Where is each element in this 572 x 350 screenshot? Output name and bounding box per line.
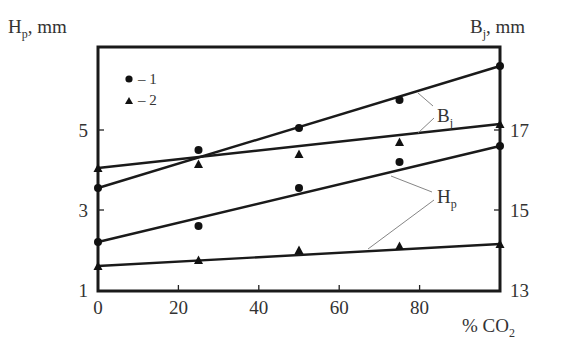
circle-marker-icon xyxy=(295,124,303,132)
triangle-marker-icon xyxy=(395,138,404,147)
x-tick-label: 0 xyxy=(93,297,103,318)
circle-marker-icon xyxy=(295,184,303,192)
triangle-marker-icon xyxy=(295,246,304,255)
chart: 020406080135131517 Hp, mm Bj, mm % CO2 –… xyxy=(0,0,572,350)
y-left-title: Hp, mm xyxy=(8,16,67,41)
legend-label-2: – 2 xyxy=(137,92,157,108)
circle-marker-icon xyxy=(195,222,203,230)
x-tick-label: 40 xyxy=(249,297,268,318)
circle-marker-icon xyxy=(396,158,404,166)
legend-circle-marker-icon xyxy=(125,75,132,82)
y-left-tick-label: 1 xyxy=(79,280,89,301)
y-right-tick-label: 13 xyxy=(510,280,529,301)
leader-hp-1 xyxy=(391,176,432,192)
circle-marker-icon xyxy=(496,142,504,150)
x-axis-title: % CO2 xyxy=(462,315,515,340)
triangle-marker-icon xyxy=(395,242,404,251)
x-tick-label: 60 xyxy=(330,297,349,318)
fit-lines xyxy=(98,66,500,266)
triangle-marker-icon xyxy=(295,150,304,159)
circle-marker-icon xyxy=(94,238,102,246)
circle-marker-icon xyxy=(195,146,203,154)
circle-marker-icon xyxy=(396,96,404,104)
legend-triangle-marker-icon xyxy=(125,97,133,104)
annotation-bj: Bj xyxy=(437,105,453,130)
y-right-tick-label: 17 xyxy=(510,120,529,141)
y-right-title: Bj, mm xyxy=(470,16,525,41)
leader-bj-1 xyxy=(418,93,433,106)
annotation-hp: Hp xyxy=(437,186,457,211)
x-tick-label: 20 xyxy=(169,297,188,318)
triangle-marker-icon xyxy=(194,160,203,169)
y-right-tick-label: 15 xyxy=(510,200,529,221)
axis-ticks: 020406080135131517 xyxy=(79,120,530,318)
y-left-tick-label: 3 xyxy=(79,200,89,221)
legend: – 1 – 2 xyxy=(125,71,157,108)
circle-marker-icon xyxy=(496,62,504,70)
circle-marker-icon xyxy=(94,184,102,192)
leader-hp-2 xyxy=(368,200,434,249)
legend-label-1: – 1 xyxy=(137,71,157,87)
y-left-tick-label: 5 xyxy=(79,120,89,141)
annotation-leaders xyxy=(368,93,434,249)
x-tick-label: 80 xyxy=(410,297,429,318)
